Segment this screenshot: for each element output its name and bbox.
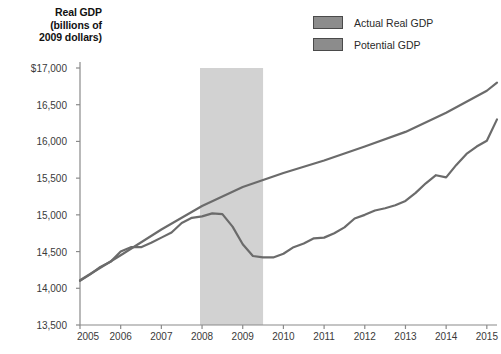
y-axis-tick-label: 15,000 — [0, 209, 77, 220]
x-axis-tick-label: 2007 — [150, 331, 172, 342]
x-axis-tick-label: 2012 — [354, 331, 376, 342]
x-axis-tick-label: 2011 — [313, 331, 335, 342]
legend-label-actual-real-gdp: Actual Real GDP — [354, 17, 433, 29]
x-axis-tick-label: 2005 — [77, 331, 99, 342]
y-axis-tick-label: 16,500 — [0, 99, 77, 110]
y-axis-tick-label: 13,500 — [0, 320, 77, 331]
legend-swatch-actual-real-gdp — [313, 16, 343, 29]
legend-item-actual-real-gdp: Actual Real GDP — [313, 14, 493, 31]
y-axis-tick-labels: $17,00016,50016,00015,50015,00014,50014,… — [0, 0, 77, 354]
recession-band — [200, 68, 263, 325]
series-line-actual-real-gdp — [80, 119, 497, 281]
x-axis-tick-label: 2006 — [110, 331, 132, 342]
x-axis-tick-label: 2015 — [476, 331, 498, 342]
x-axis-tick-label: 2013 — [394, 331, 416, 342]
legend-swatch-potential-gdp — [313, 38, 343, 51]
axis-lines — [80, 62, 497, 325]
x-axis-tick-label: 2014 — [435, 331, 457, 342]
x-axis-tick-label: 2010 — [272, 331, 294, 342]
x-axis-tick-label: 2009 — [232, 331, 254, 342]
chart-legend: Actual Real GDP Potential GDP — [313, 14, 493, 58]
y-axis-tick-label: $17,000 — [0, 63, 77, 74]
legend-item-potential-gdp: Potential GDP — [313, 36, 493, 53]
y-axis-tick-label: 15,500 — [0, 173, 77, 184]
legend-label-potential-gdp: Potential GDP — [354, 39, 421, 51]
y-axis-tick-label: 14,000 — [0, 283, 77, 294]
x-axis-tick-label: 2008 — [191, 331, 213, 342]
y-axis-tick-label: 14,500 — [0, 246, 77, 257]
chart-container: Real GDP (billions of 2009 dollars) Actu… — [0, 0, 501, 354]
y-axis-tick-label: 16,000 — [0, 136, 77, 147]
